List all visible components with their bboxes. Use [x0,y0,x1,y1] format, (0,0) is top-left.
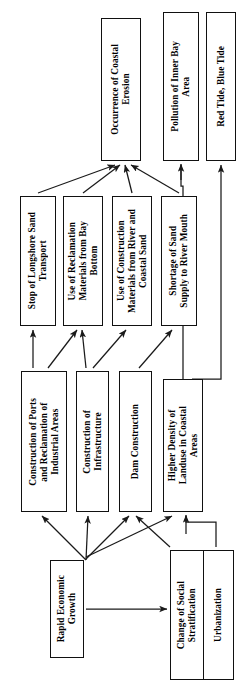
edge-sand-shortage-to-erosion [131,165,179,193]
edge-growth-to-ports [42,516,86,560]
node-occurrence-of-coastal-erosion[interactable]: Occurrence of Coastal Erosion [101,18,141,161]
edge-infrastructure-to-reclamation [82,330,86,368]
edge-infrastructure-to-construction [93,330,126,368]
node-urbanization[interactable]: Urbanization [203,550,234,680]
node-label: Use of Reclamation Materials from Bay Bo… [67,221,100,301]
edge-reclamation-to-erosion [83,165,120,193]
node-construction-of-ports-and-reclamation-of-industrial-areas[interactable]: Construction of Ports and Reclamation of… [21,371,67,512]
node-label: Shortage of Sand Supply to River Mouth [168,214,190,308]
node-label: Occurrence of Coastal Erosion [110,44,132,135]
diagram-canvas: Occurrence of Coastal Erosion Pollution … [0,0,244,695]
node-label: Higher Density of Landuse in Coastal Are… [167,406,200,484]
edge-ports-to-reclamation [48,330,77,368]
node-label: Pollution of Inner Bay Area [170,41,192,132]
node-label: Change of Social Stratification [176,581,198,649]
node-label: Rapid Economic Growth [56,575,78,642]
node-label: Red Tide, Blue Tide [216,46,227,127]
node-construction-of-infrastructure[interactable]: Construction of Infrastructure [76,371,109,512]
edge-growth-to-landuse [86,516,172,557]
node-higher-density-of-landuse-in-coastal-areas[interactable]: Higher Density of Landuse in Coastal Are… [163,379,203,512]
edge-dam-to-sand-shortage [139,330,172,368]
node-dam-construction[interactable]: Dam Construction [119,371,152,512]
node-shortage-of-sand-supply-to-river-mouth[interactable]: Shortage of Sand Supply to River Mouth [161,196,197,326]
node-change-of-social-stratification[interactable]: Change of Social Stratification [170,550,203,680]
node-use-of-construction-materials-from-river-and-coastal-sand[interactable]: Use of Construction Materials from River… [112,196,152,326]
node-label: Construction of Ports and Reclamation of… [28,398,61,486]
node-label: Dam Construction [130,404,141,479]
node-rapid-economic-growth[interactable]: Rapid Economic Growth [50,560,84,658]
node-pollution-of-inner-bay-area[interactable]: Pollution of Inner Bay Area [163,12,199,161]
node-label: Construction of Infrastructure [82,410,104,474]
edge-growth-to-infrastructure [86,516,88,560]
edge-stop-longshore-to-erosion [38,165,115,193]
edge-construction-to-erosion [125,165,132,193]
edge-social-to-dam [136,516,170,547]
node-stop-of-longshore-sand-transport[interactable]: Stop of Longshore Sand Transport [20,196,56,326]
node-use-of-reclamation-materials-from-bay-bottom[interactable]: Use of Reclamation Materials from Bay Bo… [63,196,103,326]
node-label: Urbanization [213,588,224,642]
node-label: Use of Construction Materials from River… [116,209,149,313]
node-red-tide-blue-tide[interactable]: Red Tide, Blue Tide [206,12,236,161]
edge-urbanization-to-landuse [186,516,216,547]
edge-growth-to-dam [86,516,129,559]
node-label: Stop of Longshore Sand Transport [27,212,49,309]
